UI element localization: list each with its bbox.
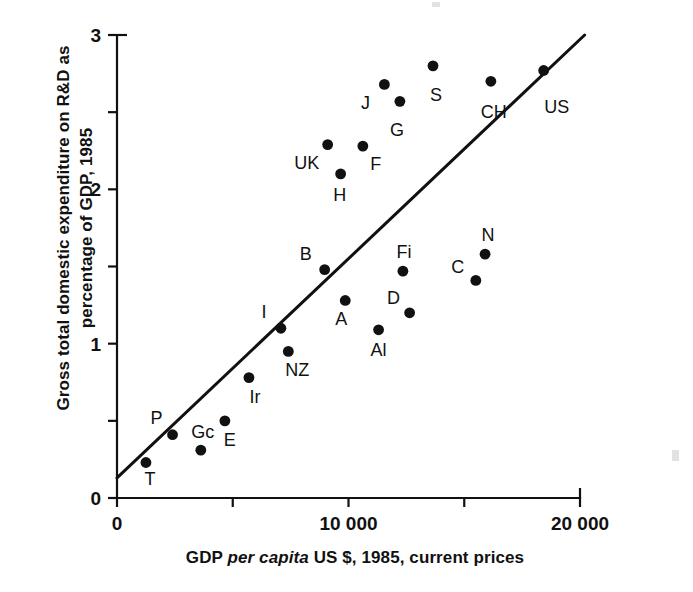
data-point-US[interactable] xyxy=(538,65,549,76)
data-point-label-CH: CH xyxy=(481,102,507,122)
data-point-CH[interactable] xyxy=(485,76,496,87)
data-point-label-D: D xyxy=(387,288,400,308)
data-point-label-A: A xyxy=(335,309,347,329)
tick-labels-group: 010 00020 0000123 xyxy=(90,25,609,534)
data-point-label-N: N xyxy=(482,225,495,245)
data-point-label-Ir: Ir xyxy=(249,387,260,407)
trend-line xyxy=(117,35,585,478)
data-point-label-J: J xyxy=(361,93,370,113)
data-point-UK[interactable] xyxy=(322,139,333,150)
data-point-label-Gc: Gc xyxy=(191,422,214,442)
data-point-J[interactable] xyxy=(379,79,390,90)
data-point-T[interactable] xyxy=(141,457,152,468)
y-axis-title-line1: Gross total domestic expenditure on R&D … xyxy=(52,0,75,458)
scatter-chart-figure: TPGcEIrNZIAAlBDFiCNHUKFJGSCHUS 010 00020… xyxy=(0,0,693,592)
x-axis-title-post: US $, 1985, current prices xyxy=(309,548,524,567)
data-point-E[interactable] xyxy=(219,415,230,426)
y-tick-label-0: 0 xyxy=(90,488,101,509)
data-point-label-NZ: NZ xyxy=(285,360,309,380)
data-point-I[interactable] xyxy=(276,323,287,334)
data-point-Fi[interactable] xyxy=(398,266,409,277)
data-point-label-E: E xyxy=(224,430,236,450)
data-point-label-H: H xyxy=(333,185,346,205)
data-point-label-S: S xyxy=(430,85,442,105)
data-point-Gc[interactable] xyxy=(195,445,206,456)
data-point-label-T: T xyxy=(144,469,155,489)
x-tick-label-2: 10 000 xyxy=(319,513,377,534)
x-tick-label-0: 0 xyxy=(112,513,123,534)
trend-line-group xyxy=(117,35,585,478)
data-point-label-P: P xyxy=(151,408,163,428)
data-point-A[interactable] xyxy=(340,295,351,306)
scan-speck-right xyxy=(672,450,679,461)
x-axis-title-pre: GDP xyxy=(186,548,228,567)
data-point-F[interactable] xyxy=(357,141,368,152)
x-axis-title: GDP per capita US $, 1985, current price… xyxy=(120,548,590,568)
data-point-G[interactable] xyxy=(394,96,405,107)
data-point-label-G: G xyxy=(390,120,404,140)
data-point-label-C: C xyxy=(451,257,464,277)
data-points-group: TPGcEIrNZIAAlBDFiCNHUKFJGSCHUS xyxy=(141,60,570,488)
data-point-B[interactable] xyxy=(319,264,330,275)
data-point-P[interactable] xyxy=(167,429,178,440)
data-point-C[interactable] xyxy=(470,275,481,286)
data-point-N[interactable] xyxy=(480,249,491,260)
data-point-label-I: I xyxy=(261,302,266,322)
data-point-label-UK: UK xyxy=(294,153,319,173)
data-point-label-Fi: Fi xyxy=(396,242,411,262)
data-point-H[interactable] xyxy=(335,169,346,180)
x-axis-title-italic: per capita xyxy=(228,548,309,567)
data-point-label-B: B xyxy=(300,244,312,264)
data-point-NZ[interactable] xyxy=(283,346,294,357)
data-point-S[interactable] xyxy=(428,60,439,71)
data-point-label-US: US xyxy=(544,97,569,117)
data-point-Al[interactable] xyxy=(373,324,384,335)
plot-area: TPGcEIrNZIAAlBDFiCNHUKFJGSCHUS 010 00020… xyxy=(0,0,693,592)
x-tick-label-4: 20 000 xyxy=(551,513,609,534)
data-point-label-Al: Al xyxy=(371,340,387,360)
scan-speck-top xyxy=(432,2,440,7)
data-point-D[interactable] xyxy=(404,307,415,318)
data-point-label-F: F xyxy=(370,154,381,174)
data-point-Ir[interactable] xyxy=(244,372,255,383)
y-axis-title-line2: percentage of GDP, 1985 xyxy=(75,0,98,458)
y-axis-title: Gross total domestic expenditure on R&D … xyxy=(52,0,98,458)
